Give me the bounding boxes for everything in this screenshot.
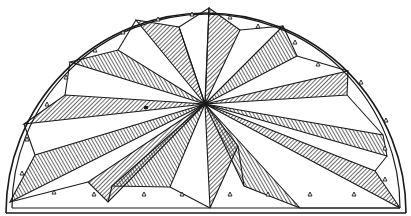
hatched-rays — [10, 8, 400, 208]
small-mark — [144, 106, 148, 109]
fan-illustration — [0, 0, 411, 216]
center-point — [203, 102, 208, 107]
